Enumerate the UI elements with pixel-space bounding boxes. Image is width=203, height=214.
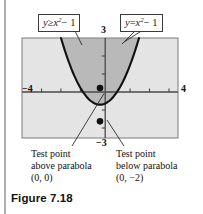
annotation-below-coords: (0, −2)	[116, 172, 177, 184]
callout-equation-tail: − 1	[144, 17, 158, 28]
y-axis-max-label: 3	[101, 24, 106, 35]
x-axis-max-label: 4	[181, 83, 186, 94]
annotation-below-parabola: Test point below parabola (0, −2)	[116, 148, 177, 184]
annotation-above-parabola: Test point above parabola (0, 0)	[31, 148, 92, 184]
figure-container: y≥x2− 1 y=x2− 1 3 −3 −4 4 Test point abo…	[0, 0, 203, 214]
annotation-above-line2: above parabola	[31, 160, 92, 172]
annotation-below-line1: Test point	[116, 148, 177, 160]
test-point-above-parabola	[97, 85, 104, 92]
annotation-above-coords: (0, 0)	[31, 172, 92, 184]
x-axis-min-label: −4	[22, 83, 33, 94]
callout-inequality: y≥x2− 1	[38, 14, 80, 32]
annotation-below-line2: below parabola	[116, 160, 177, 172]
y-axis-min-label: −3	[96, 137, 107, 148]
annotation-above-line1: Test point	[31, 148, 92, 160]
figure-caption: Figure 7.18	[11, 192, 73, 204]
test-point-below-parabola	[97, 118, 104, 125]
callout-inequality-tail: − 1	[62, 17, 76, 28]
callout-equation: y=x2− 1	[120, 14, 163, 32]
